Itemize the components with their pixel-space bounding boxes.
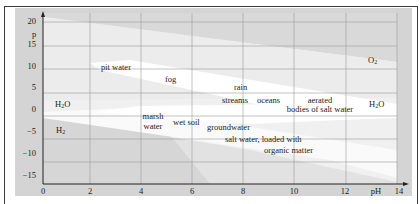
x-tick-4: 4 — [131, 186, 151, 196]
annotation-aerated-2: bodies of salt water — [280, 104, 360, 114]
annotation-rain: rain — [234, 82, 247, 92]
region-label-h2o-right: H2O — [369, 99, 384, 109]
region-label-h2: H2 — [56, 125, 65, 135]
y-tick-minus-15: −15 — [16, 170, 36, 180]
y-tick-15: 15 — [16, 39, 36, 49]
o2-sub: 2 — [374, 59, 377, 65]
annotation-marsh: marsh — [138, 111, 168, 121]
h2-sub: 2 — [62, 129, 65, 135]
annotation-salt-water: salt water, loaded with — [225, 134, 302, 144]
h2o-right-tail: O — [378, 99, 384, 109]
h2o-left-tail: O — [64, 99, 70, 109]
annotation-oceans: oceans — [257, 95, 280, 105]
x-tick-2: 2 — [80, 186, 100, 196]
region-label-h2o-left: H2O — [55, 99, 70, 109]
y-tick-5: 5 — [16, 82, 36, 92]
annotation-wet-soil: wet soil — [173, 117, 200, 127]
x-axis-label: pH — [366, 186, 386, 196]
annotation-pit-water: pit water — [101, 62, 131, 72]
x-tick-12: 12 — [335, 186, 355, 196]
annotation-marsh-2: water — [138, 121, 168, 131]
y-tick-minus-10: −10 — [16, 148, 36, 158]
annotation-groundwater: groundwater — [207, 122, 250, 132]
annotation-fog: fog — [165, 74, 176, 84]
y-tick-0: 0 — [16, 104, 36, 114]
y-tick-10: 10 — [16, 61, 36, 71]
y-tick-minus-5: −5 — [16, 126, 36, 136]
x-tick-0: 0 — [33, 186, 53, 196]
x-tick-8: 8 — [233, 186, 253, 196]
y-axis-label: p — [28, 29, 40, 39]
annotation-streams: streams — [222, 95, 248, 105]
annotation-salt-water-2: organic matter — [264, 145, 313, 155]
y-tick-20: 20 — [16, 16, 36, 26]
x-tick-14: 14 — [389, 186, 409, 196]
x-tick-10: 10 — [284, 186, 304, 196]
x-tick-6: 6 — [182, 186, 202, 196]
region-label-o2: O2 — [368, 55, 377, 65]
